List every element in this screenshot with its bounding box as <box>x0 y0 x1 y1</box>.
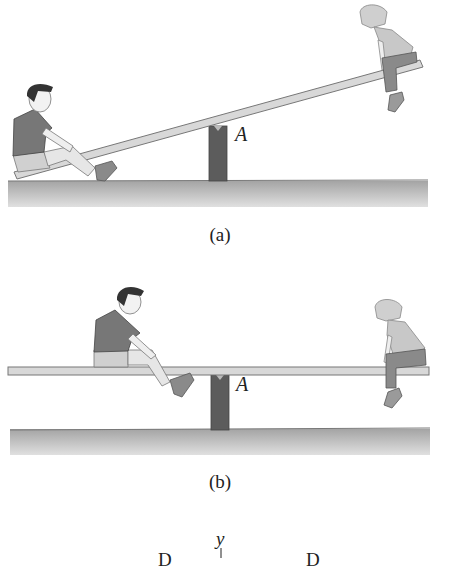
pivot-post-b <box>211 375 229 430</box>
pivot-post-a <box>209 126 227 181</box>
y-axis-label: y <box>216 528 224 550</box>
ground-b <box>10 429 430 455</box>
figure-a <box>8 5 428 207</box>
pivot-label-a: A <box>235 123 247 146</box>
pivot-label-b: A <box>236 373 248 396</box>
right-d-label: D <box>306 549 320 570</box>
boy-figure-a <box>13 84 117 181</box>
girl-figure-b <box>375 300 426 409</box>
left-d-label: D <box>158 549 172 570</box>
ground-a <box>8 181 428 207</box>
boy-figure-b <box>94 287 194 397</box>
figure-b <box>8 287 430 455</box>
plank-b <box>8 367 429 375</box>
caption-b: (b) <box>209 471 231 493</box>
caption-a: (a) <box>209 224 230 246</box>
girl-figure-a <box>360 5 417 112</box>
